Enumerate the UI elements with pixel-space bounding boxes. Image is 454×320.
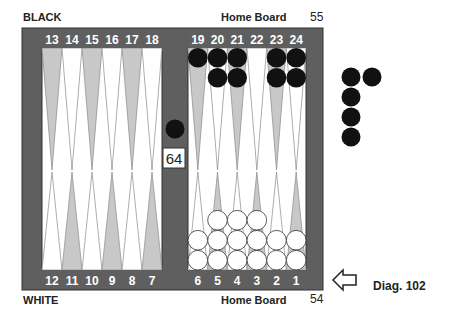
doubling-cube-value: 64 bbox=[166, 150, 183, 167]
point-number-6: 6 bbox=[194, 274, 201, 288]
white-checker[interactable] bbox=[208, 230, 228, 250]
white-checker[interactable] bbox=[208, 210, 228, 230]
white-checker[interactable] bbox=[247, 210, 267, 230]
black-checker[interactable] bbox=[227, 68, 247, 88]
black-checker[interactable] bbox=[267, 48, 287, 68]
point-number-8: 8 bbox=[129, 274, 136, 288]
black-checker[interactable] bbox=[208, 68, 228, 88]
point-number-24: 24 bbox=[289, 33, 303, 47]
black-checker[interactable] bbox=[286, 68, 306, 88]
point-number-19: 19 bbox=[191, 33, 205, 47]
point-number-10: 10 bbox=[85, 274, 99, 288]
backgammon-board: 131214111510169178187196205214223232241 … bbox=[0, 0, 454, 320]
black-checker[interactable] bbox=[188, 48, 208, 68]
white-checker[interactable] bbox=[227, 250, 247, 270]
point-number-2: 2 bbox=[273, 274, 280, 288]
point-number-11: 11 bbox=[66, 274, 79, 288]
black-checker[interactable] bbox=[267, 68, 287, 88]
point-number-1: 1 bbox=[293, 274, 300, 288]
white-checker[interactable] bbox=[227, 210, 247, 230]
white-checker[interactable] bbox=[208, 250, 228, 270]
point-number-3: 3 bbox=[253, 274, 260, 288]
white-checker[interactable] bbox=[227, 230, 247, 250]
black-checker[interactable] bbox=[286, 48, 306, 68]
black-checker[interactable] bbox=[227, 48, 247, 68]
point-number-23: 23 bbox=[270, 33, 284, 47]
borne-off-black bbox=[342, 68, 382, 147]
point-number-21: 21 bbox=[230, 33, 244, 47]
point-number-4: 4 bbox=[234, 274, 241, 288]
turn-arrow-icon bbox=[333, 270, 356, 290]
white-checker[interactable] bbox=[286, 250, 306, 270]
point-number-13: 13 bbox=[45, 33, 59, 47]
white-checker[interactable] bbox=[247, 250, 267, 270]
white-checker[interactable] bbox=[267, 230, 287, 250]
point-number-18: 18 bbox=[145, 33, 159, 47]
white-checker[interactable] bbox=[247, 230, 267, 250]
point-number-7: 7 bbox=[149, 274, 156, 288]
point-number-15: 15 bbox=[85, 33, 99, 47]
point-number-9: 9 bbox=[109, 274, 116, 288]
point-number-14: 14 bbox=[65, 33, 79, 47]
black-checker[interactable] bbox=[208, 48, 228, 68]
point-number-20: 20 bbox=[211, 33, 225, 47]
point-number-16: 16 bbox=[105, 33, 119, 47]
point-number-22: 22 bbox=[250, 33, 264, 47]
outer-board-field bbox=[42, 48, 162, 270]
bar-black-checker[interactable] bbox=[166, 120, 185, 139]
white-checker[interactable] bbox=[286, 230, 306, 250]
point-number-12: 12 bbox=[45, 274, 59, 288]
point-number-5: 5 bbox=[214, 274, 221, 288]
white-checker[interactable] bbox=[267, 250, 287, 270]
white-checker[interactable] bbox=[188, 250, 208, 270]
point-number-17: 17 bbox=[125, 33, 139, 47]
white-checker[interactable] bbox=[188, 230, 208, 250]
